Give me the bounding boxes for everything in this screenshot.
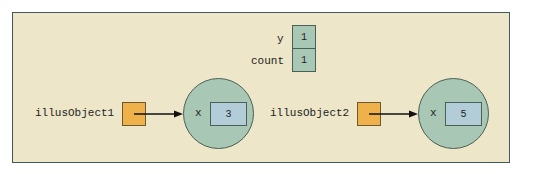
arrow-icon bbox=[369, 111, 418, 118]
reference-arrows bbox=[0, 0, 534, 174]
arrow-icon bbox=[134, 111, 183, 118]
